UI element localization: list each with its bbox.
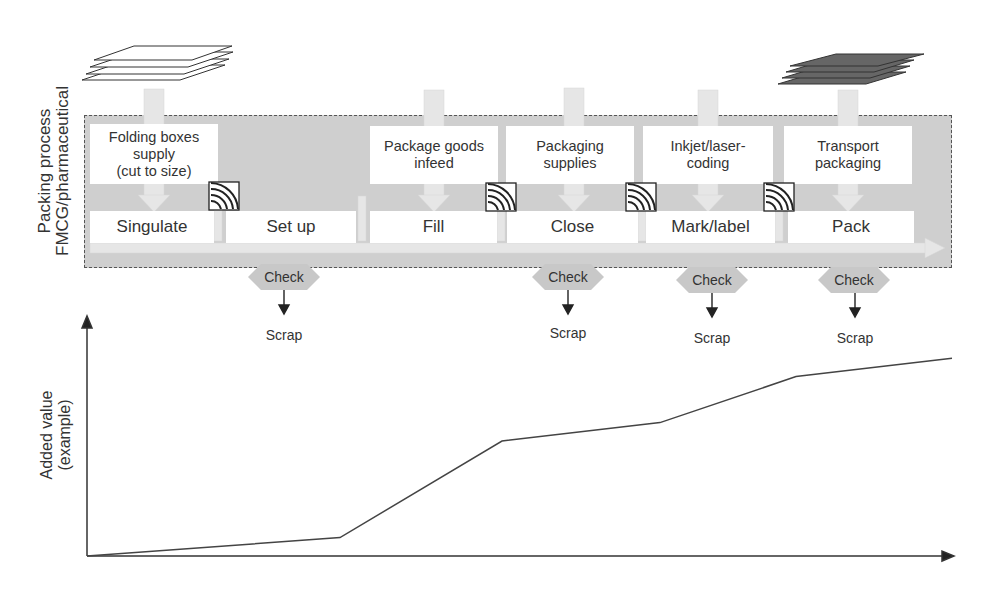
added-value-chart <box>0 0 983 590</box>
x-axis-arrow-icon <box>942 551 954 561</box>
value-line <box>87 358 952 556</box>
y-axis-arrow-icon <box>82 316 92 328</box>
